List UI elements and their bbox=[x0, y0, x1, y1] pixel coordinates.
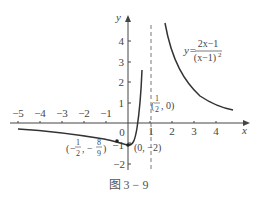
y-tick-label: 1 bbox=[119, 97, 125, 109]
svg-text:, −: , − bbox=[82, 143, 93, 154]
point-y-intercept-marker bbox=[126, 143, 130, 147]
svg-text:(x−1): (x−1) bbox=[194, 52, 216, 64]
svg-text:2x−1: 2x−1 bbox=[198, 38, 219, 49]
svg-text:, 0): , 0) bbox=[161, 100, 174, 112]
y-tick-labels: 4 3 2 1 −1 −2 bbox=[112, 35, 125, 170]
point-min-marker bbox=[115, 139, 119, 143]
x-tick-label: −1 bbox=[100, 107, 112, 119]
svg-text:9: 9 bbox=[97, 149, 101, 158]
x-tick-label: 2 bbox=[169, 125, 175, 137]
function-plot: −5 −4 −3 −2 −1 1 2 3 4 0 x y 4 3 2 1 −1 … bbox=[0, 0, 257, 199]
x-tick-label: −2 bbox=[78, 107, 90, 119]
y-axis-label: y bbox=[115, 11, 121, 23]
figure: −5 −4 −3 −2 −1 1 2 3 4 0 x y 4 3 2 1 −1 … bbox=[0, 0, 257, 199]
annotation-y-intercept: (0, −2) bbox=[134, 142, 161, 154]
y-tick-label: 2 bbox=[119, 76, 125, 88]
y-tick-label: 3 bbox=[119, 56, 125, 68]
svg-text:8: 8 bbox=[97, 138, 101, 147]
origin-label: 0 bbox=[119, 126, 125, 138]
x-tick-label: 4 bbox=[213, 125, 219, 137]
x-tick-label: −5 bbox=[12, 107, 24, 119]
svg-text:1: 1 bbox=[76, 138, 80, 147]
x-axis-label: x bbox=[241, 124, 247, 136]
y-axis-arrow-icon bbox=[125, 15, 131, 22]
x-tick-label: 3 bbox=[191, 125, 197, 137]
x-tick-label: −4 bbox=[34, 107, 46, 119]
figure-caption: 图 3 − 9 bbox=[0, 175, 257, 193]
x-tick-label: −3 bbox=[56, 107, 68, 119]
function-label: y= 2x−1 (x−1) 2 bbox=[183, 38, 222, 64]
x-tick-labels: −5 −4 −3 −2 −1 1 2 3 4 0 x y bbox=[12, 11, 247, 138]
svg-text:1: 1 bbox=[155, 94, 159, 103]
annotation-x-intercept: ( 1 2 , 0) bbox=[151, 94, 174, 114]
y-tick-label: −2 bbox=[113, 158, 125, 170]
annotation-minimum-point: ( − 1 2 , − 8 9 ) bbox=[66, 138, 106, 158]
curve-right-branch bbox=[165, 23, 233, 110]
y-tick-label: 4 bbox=[119, 35, 125, 47]
svg-text:2: 2 bbox=[155, 105, 159, 114]
svg-text:2: 2 bbox=[218, 51, 222, 59]
svg-text:): ) bbox=[103, 143, 106, 155]
svg-text:2: 2 bbox=[76, 149, 80, 158]
